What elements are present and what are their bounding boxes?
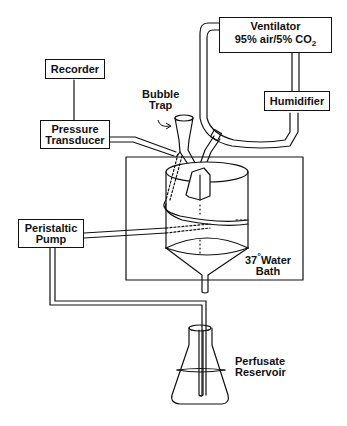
gas-mix-text: 95% air/5% CO <box>235 33 312 45</box>
humidifier-box: Humidifier <box>264 91 330 111</box>
recorder-box: Recorder <box>45 59 105 79</box>
pressure-transducer-box: Pressure Transducer <box>40 120 110 149</box>
ventilator-gas-mix: 95% air/5% CO2 <box>235 34 317 49</box>
ventilator-box: Ventilator 95% air/5% CO2 <box>219 17 332 53</box>
humidifier-label: Humidifier <box>270 96 324 107</box>
bath-temp: 37 <box>245 254 257 266</box>
recorder-label: Recorder <box>51 64 99 75</box>
peristaltic-pump-line2: Pump <box>36 234 67 245</box>
bubble-trap-label: Bubble Trap <box>142 89 179 111</box>
pressure-transducer-line2: Transducer <box>45 135 104 146</box>
peristaltic-pump-box: Peristaltic Pump <box>18 219 84 248</box>
perfusate-reservoir-line2: Reservoir <box>235 367 286 378</box>
peristaltic-pump-line1: Peristaltic <box>25 223 78 234</box>
water-bath-label: 37°Water Bath <box>245 251 291 277</box>
perfusate-reservoir-label: Perfusate Reservoir <box>235 356 286 378</box>
gas-mix-subscript: 2 <box>312 39 316 48</box>
water-bath-line2: Bath <box>245 266 291 277</box>
pressure-transducer-line1: Pressure <box>51 124 98 135</box>
ventilator-label: Ventilator <box>250 21 300 32</box>
bubble-trap-line2: Trap <box>142 100 179 111</box>
water-bath-line1: 37°Water <box>245 251 291 266</box>
bath-water-text: Water <box>261 254 291 266</box>
